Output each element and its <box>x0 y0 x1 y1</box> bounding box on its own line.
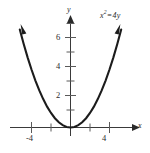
parabola-figure: 6 4 2 -4 4 y x x2=4y <box>0 0 150 153</box>
y-axis-label: y <box>67 6 71 14</box>
equation-label: x2=4y <box>100 12 120 20</box>
y-axis-arrow-icon <box>67 15 74 23</box>
graph-canvas <box>0 0 150 153</box>
x-tick-label-4: 4 <box>102 134 106 143</box>
y-tick-label-2: 2 <box>56 91 60 100</box>
y-tick-label-4: 4 <box>56 62 60 71</box>
equation-rhs: 4y <box>112 11 120 20</box>
x-tick-label-neg4: -4 <box>26 134 33 143</box>
x-axis-label: x <box>138 122 142 130</box>
y-tick-label-6: 6 <box>56 33 60 42</box>
